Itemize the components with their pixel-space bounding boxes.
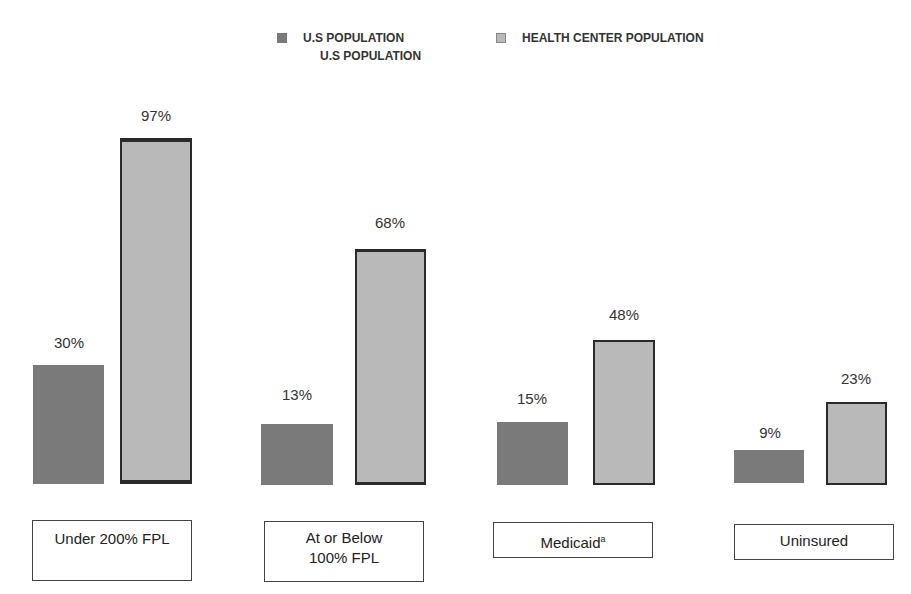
category-text-line2: 100% FPL [265,548,423,568]
value-label-hc-below-100: 68% [350,214,430,231]
bar-hc-below-100 [355,249,426,485]
category-label-uninsured: Uninsured [734,524,894,560]
value-label-hc-medicaid: 48% [584,306,664,323]
value-label-us-under-200: 30% [29,334,109,351]
legend-label-hc: HEALTH CENTER POPULATION [522,31,704,45]
bar-us-below-100 [261,424,333,485]
bar-us-medicaid [497,422,568,485]
legend-health-center-population: HEALTH CENTER POPULATION [496,31,704,45]
category-label-medicaid: Medicaida [493,522,653,558]
category-text: Uninsured [780,532,848,549]
value-label-us-medicaid: 15% [492,390,572,407]
legend-swatch-hc [496,33,506,43]
value-label-hc-uninsured: 23% [816,370,896,387]
bar-us-uninsured [734,450,804,483]
category-text: Medicaid [540,534,600,551]
value-label-us-below-100: 13% [257,386,337,403]
legend-swatch-us [277,33,287,43]
bar-us-under-200 [33,365,104,484]
legend-label-us: U.S POPULATION [303,31,404,45]
category-label-below-100: At or Below 100% FPL [264,521,424,582]
legend-label-us-duplicate: U.S POPULATION [320,49,421,63]
value-label-hc-under-200: 97% [116,107,196,124]
category-text: At or Below [265,528,423,548]
bar-hc-uninsured [826,402,887,485]
bar-hc-under-200 [120,138,192,484]
bar-hc-medicaid [593,340,655,485]
footnote-marker: a [601,534,606,544]
category-label-under-200: Under 200% FPL [32,520,192,581]
category-text: Under 200% FPL [54,530,169,547]
legend-us-population: U.S POPULATION [277,31,404,45]
value-label-us-uninsured: 9% [730,424,810,441]
